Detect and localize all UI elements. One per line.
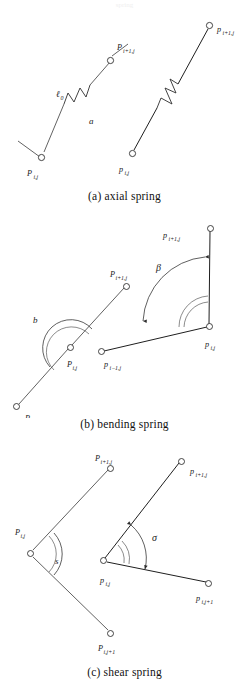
- shear-left-rest-shape: [33, 470, 108, 630]
- node-P-im1-j-rest: [14, 404, 20, 410]
- label-node-p-i1-j-deformed-sub: i+1,j: [223, 30, 235, 36]
- node-P-i-j-rest: [38, 154, 44, 160]
- node-p-i-j1-deformed-shear: [206, 581, 212, 587]
- label-rest-length: ℓ: [56, 89, 60, 99]
- label-node-p-im1-j-deformed-sub: i−1,j: [110, 365, 122, 371]
- label-angle-s: s: [55, 556, 59, 566]
- angle-arc-beta: [143, 257, 205, 321]
- node-P-i-j1-rest-shear: [108, 631, 114, 637]
- label-node-P-i1-j-rest-bend-sub: i+1,j: [116, 275, 128, 281]
- label-node-P-i-j-rest: P: [26, 169, 32, 178]
- bending-spring-diagram: b P i−1,j P i,j P i+1,j: [0, 215, 249, 418]
- label-angle-beta: β: [155, 262, 161, 273]
- node-p-i1-j-deformed-bend: [208, 226, 214, 232]
- label-node-P-i-j1-rest-shear: P: [97, 644, 103, 653]
- panel-shear-spring: s P i,j P i+1,j P i,j+1: [0, 445, 249, 696]
- label-node-p-i-j-deformed-bend: p: [204, 340, 209, 349]
- panel-bending-spring: b P i−1,j P i,j P i+1,j: [0, 215, 249, 445]
- label-node-P-i-j-rest-shear-sub: i,j: [21, 533, 26, 539]
- label-node-P-i-j-rest-bend-sub: i,j: [73, 365, 78, 371]
- label-deformed-length: a: [89, 116, 94, 126]
- label-node-p-i-j-deformed: p: [118, 165, 123, 174]
- label-node-P-i-j-rest-sub: i,j: [34, 174, 39, 180]
- shear-right-deformed-shape: [105, 463, 206, 582]
- bending-right-deformed-shape: [104, 231, 210, 351]
- angle-arc-sigma: [131, 525, 146, 569]
- label-node-P-i1-j-rest: P: [116, 43, 122, 52]
- label-node-P-i-j1-rest-shear-sub: i,j+1: [104, 649, 116, 655]
- panel-axial-spring: P i,j P i+1,j ℓ 0 a p i+1,j p i,j (: [0, 0, 249, 215]
- node-p-i-j-deformed-shear: [101, 558, 107, 564]
- angle-arc-s-outer: [54, 533, 62, 575]
- label-node-P-i1-j-rest-bend: P: [109, 270, 115, 279]
- caption-shear-spring: (c) shear spring: [0, 666, 249, 678]
- node-p-im1-j-deformed: [99, 349, 105, 355]
- label-node-P-i-j-rest-bend: P: [66, 360, 72, 369]
- label-rest-length-sub: 0: [61, 95, 64, 101]
- label-node-P-i1-j-rest-sub: i+1,j: [123, 48, 135, 54]
- node-P-i-j-rest-bend: [68, 345, 74, 351]
- label-node-p-i-j1-deformed-shear-sub: i,j+1: [202, 599, 214, 605]
- label-node-p-im1-j-deformed: p: [103, 360, 108, 369]
- node-P-i-j-rest-shear: [28, 551, 34, 557]
- label-node-P-i-j-rest-shear: P: [14, 528, 20, 537]
- label-node-p-i-j-deformed-shear-sub: i,j: [106, 581, 111, 587]
- node-p-i1-j-deformed-shear: [179, 459, 185, 465]
- label-node-p-i-j-deformed-sub: i,j: [125, 170, 130, 176]
- angle-arc-s-inner: [49, 536, 56, 572]
- label-node-P-i1-j-rest-shear-sub: i+1,j: [101, 459, 113, 465]
- axial-right-deformed-shape: [134, 29, 208, 150]
- angle-arc-sigma-inner-2: [118, 545, 124, 563]
- label-node-P-i1-j-rest-shear: P: [94, 454, 100, 463]
- label-angle-b: b: [33, 315, 38, 325]
- node-p-i-j-deformed: [129, 150, 135, 156]
- label-node-p-i1-j-deformed: p: [216, 25, 221, 34]
- caption-axial-spring: (a) axial spring: [0, 190, 249, 202]
- label-angle-sigma: σ: [152, 532, 158, 543]
- label-node-p-i1-j-deformed-shear-sub: i+1,j: [196, 472, 208, 478]
- label-node-p-i1-j-deformed-bend: p: [162, 231, 167, 240]
- label-node-p-i1-j-deformed-bend-sub: i+1,j: [169, 236, 181, 242]
- figure-page: spring P i,j P i+1,j ℓ 0: [0, 0, 249, 696]
- label-node-p-i-j-deformed-bend-sub: i,j: [211, 345, 216, 351]
- node-P-i1-j-rest-shear: [108, 466, 114, 472]
- angle-arc-beta-inner-1: [179, 296, 208, 327]
- label-node-p-i-j1-deformed-shear: p: [195, 594, 200, 603]
- node-P-i1-j-rest: [107, 57, 113, 63]
- node-P-i1-j-rest-bend: [124, 284, 130, 290]
- label-node-p-i-j-deformed-shear: p: [99, 576, 104, 585]
- node-p-i1-j-deformed: [206, 22, 212, 28]
- label-node-p-i1-j-deformed-shear: p: [189, 467, 194, 476]
- node-p-i-j-deformed-bend: [207, 324, 213, 330]
- caption-bending-spring: (b) bending spring: [0, 418, 249, 430]
- axial-spring-diagram: P i,j P i+1,j ℓ 0 a p i+1,j p i,j: [0, 0, 249, 190]
- shear-spring-diagram: s P i,j P i+1,j P i,j+1: [0, 445, 249, 666]
